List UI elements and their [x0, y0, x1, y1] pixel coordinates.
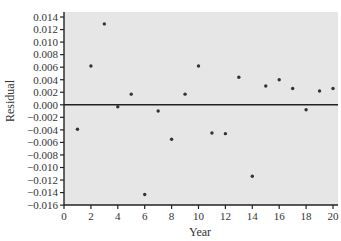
- y-tick-label: 0.006: [33, 61, 58, 73]
- x-tick-label: 20: [328, 210, 340, 222]
- data-point: [76, 128, 79, 131]
- x-tick-label: 18: [301, 210, 313, 222]
- y-tick-label: −0.014: [27, 186, 58, 198]
- x-axis: 02468101214161820: [61, 205, 339, 222]
- y-tick-label: 0.002: [33, 86, 58, 98]
- y-tick-label: −0.004: [27, 124, 58, 136]
- y-tick-label: −0.006: [27, 136, 58, 148]
- x-axis-title: Year: [189, 225, 211, 239]
- residual-scatter-plot: 0.0140.0120.0100.0080.0060.0040.0020.000…: [0, 0, 341, 241]
- data-point: [318, 89, 321, 92]
- y-tick-label: 0.012: [33, 23, 58, 35]
- x-tick-label: 2: [88, 210, 94, 222]
- data-point: [304, 108, 307, 111]
- data-point: [130, 92, 133, 95]
- data-point: [210, 131, 213, 134]
- y-tick-label: −0.012: [27, 174, 58, 186]
- data-point: [264, 84, 267, 87]
- data-point: [224, 132, 227, 135]
- y-tick-label: −0.002: [27, 111, 58, 123]
- data-point: [103, 22, 106, 25]
- data-point: [251, 175, 254, 178]
- y-axis-title: Residual: [3, 79, 17, 122]
- x-tick-label: 12: [220, 210, 231, 222]
- y-tick-label: 0.008: [33, 48, 58, 60]
- data-point: [143, 193, 146, 196]
- x-tick-label: 0: [61, 210, 67, 222]
- data-point: [278, 78, 281, 81]
- y-tick-label: 0.004: [33, 74, 58, 86]
- data-point: [156, 109, 159, 112]
- y-axis: 0.0140.0120.0100.0080.0060.0040.0020.000…: [27, 11, 64, 211]
- data-point: [116, 105, 119, 108]
- data-point: [89, 64, 92, 67]
- data-point: [237, 76, 240, 79]
- y-tick-label: −0.008: [27, 149, 58, 161]
- x-tick-label: 8: [169, 210, 175, 222]
- data-point: [183, 92, 186, 95]
- y-tick-label: 0.010: [33, 36, 58, 48]
- x-tick-label: 14: [247, 210, 259, 222]
- plot-area: [64, 12, 338, 205]
- x-tick-label: 10: [193, 210, 205, 222]
- x-tick-label: 4: [115, 210, 121, 222]
- x-tick-label: 16: [274, 210, 286, 222]
- y-tick-label: 0.014: [33, 11, 58, 23]
- data-point: [331, 87, 334, 90]
- data-point: [291, 87, 294, 90]
- y-tick-label: −0.016: [27, 199, 58, 211]
- data-point: [170, 138, 173, 141]
- x-tick-label: 6: [142, 210, 148, 222]
- y-tick-label: 0.000: [33, 99, 58, 111]
- y-tick-label: −0.010: [27, 161, 58, 173]
- data-point: [197, 64, 200, 67]
